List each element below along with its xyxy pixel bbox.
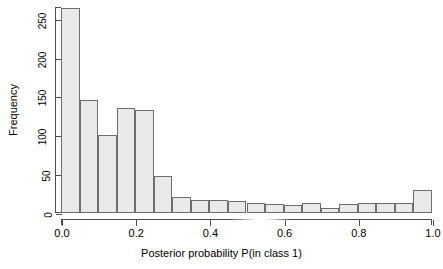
y-axis-tick-label: 250: [39, 12, 49, 29]
histogram-bar: [395, 203, 414, 213]
y-axis-title: Frequency: [6, 7, 20, 213]
y-axis-tick-label: 150: [39, 90, 49, 107]
x-axis-tick: [62, 220, 63, 226]
histogram-bar: [302, 203, 321, 213]
y-axis-tick-label: 100: [39, 129, 49, 146]
histogram-bar: [135, 110, 154, 213]
histogram-bar: [80, 100, 99, 213]
histogram-bar: [284, 205, 303, 213]
x-axis-tick-label: 0.2: [129, 228, 144, 239]
x-axis-title-label: Posterior probability P(in class 1): [141, 247, 302, 259]
histogram-bar: [321, 208, 340, 213]
x-axis-tick-label: 0.4: [203, 228, 218, 239]
x-axis-tick-label: 1.0: [425, 228, 440, 239]
x-axis-tick: [285, 220, 286, 226]
histogram-bar: [376, 203, 395, 213]
x-axis-tick-label: 0.8: [351, 228, 366, 239]
histogram-bar: [358, 203, 377, 213]
histogram-bar: [61, 8, 80, 213]
histogram-bar: [413, 190, 432, 213]
x-axis-tick: [210, 220, 211, 226]
x-axis-tick-label: 0.0: [54, 228, 69, 239]
plot-area: [61, 7, 432, 213]
y-axis-tick-label: 200: [39, 51, 49, 68]
histogram-bar: [247, 203, 266, 213]
x-axis-tick: [433, 220, 434, 226]
x-axis-title: Posterior probability P(in class 1): [0, 247, 443, 259]
x-axis-tick: [359, 220, 360, 226]
histogram-bar: [98, 135, 117, 214]
y-axis-tick-label: 50: [41, 171, 51, 182]
y-axis-title-label: Frequency: [7, 84, 19, 136]
histogram-bar: [265, 204, 284, 213]
y-axis-tick-label: 0: [44, 212, 54, 218]
histogram-bar: [172, 197, 191, 213]
x-axis: 0.00.20.40.60.81.0: [61, 219, 432, 225]
histogram-bar: [339, 204, 358, 213]
histogram-bar: [117, 108, 136, 213]
histogram-figure: Frequency 050100150200250 0.00.20.40.60.…: [0, 0, 443, 269]
y-axis-tick: 0: [56, 214, 62, 215]
x-axis-tick: [136, 220, 137, 226]
x-axis-tick-label: 0.6: [277, 228, 292, 239]
histogram-bar: [228, 201, 247, 213]
histogram-bar: [191, 200, 210, 213]
histogram-bar: [209, 200, 228, 213]
histogram-bar: [154, 176, 173, 213]
